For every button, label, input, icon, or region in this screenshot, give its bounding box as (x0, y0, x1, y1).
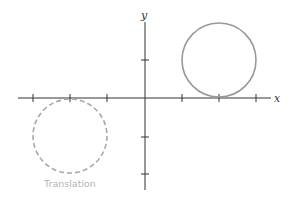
y-axis-label: y (140, 9, 148, 22)
translated-circle (33, 99, 107, 173)
x-axis-label: x (274, 92, 281, 105)
original-circle (182, 23, 256, 97)
coordinate-diagram: y x Translation (0, 0, 293, 201)
translation-caption: Translation (43, 178, 96, 189)
